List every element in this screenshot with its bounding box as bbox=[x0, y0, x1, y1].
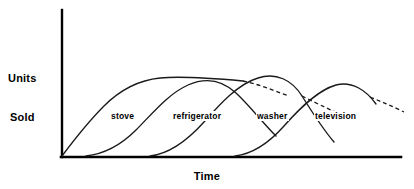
curve-label-refrigerator: refrigerator bbox=[172, 111, 222, 121]
product-life-cycle-chart: Units Sold Time stove refrigerator washe… bbox=[0, 0, 414, 189]
curve-stove-dashed-tail bbox=[243, 81, 289, 96]
y-axis-title: Units Sold bbox=[8, 46, 56, 150]
curve-label-television: television bbox=[314, 111, 357, 121]
chart-plot-area bbox=[0, 0, 414, 189]
x-axis-title: Time bbox=[0, 170, 414, 183]
curve-label-washer: washer bbox=[256, 111, 289, 121]
curve-label-stove: stove bbox=[110, 111, 135, 121]
y-axis-title-line-1: Units bbox=[8, 72, 56, 85]
curve-television-dashed-tail bbox=[370, 97, 404, 112]
y-axis-title-line-2: Sold bbox=[8, 111, 56, 124]
